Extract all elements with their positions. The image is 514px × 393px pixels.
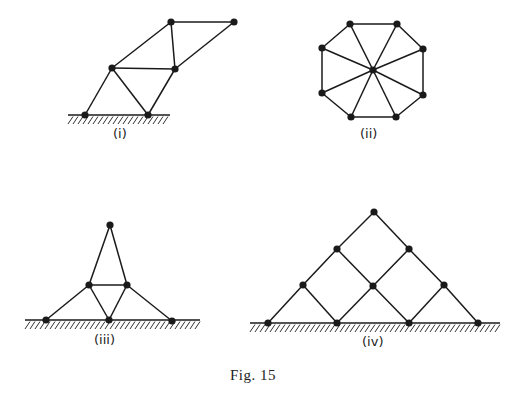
ground-hatch	[305, 325, 310, 333]
joint-node	[81, 111, 88, 118]
truss-bar	[337, 286, 373, 323]
ground-hatch	[55, 322, 60, 330]
truss-bar	[373, 24, 397, 70]
ground-hatch	[330, 325, 335, 333]
ground-hatch	[260, 325, 265, 333]
panel-label-ii: (ii)	[360, 126, 377, 141]
ground-hatch	[195, 322, 200, 330]
ground-hatch	[455, 325, 460, 333]
ground-hatch	[360, 325, 365, 333]
truss-bar	[322, 93, 351, 117]
ground-hatch	[190, 322, 195, 330]
ground-hatch	[93, 117, 98, 125]
truss-bar	[373, 49, 423, 70]
joint-node	[333, 245, 340, 252]
truss-bar	[110, 225, 127, 285]
joint-node	[405, 245, 412, 252]
joint-node	[369, 66, 376, 73]
panel-i	[68, 18, 238, 124]
joint-node	[299, 281, 306, 288]
ground-hatch	[415, 325, 420, 333]
joint-node	[264, 319, 271, 326]
truss-bar	[350, 24, 373, 70]
truss-bar	[337, 212, 374, 249]
ground-hatch	[30, 322, 35, 330]
truss-bar	[351, 70, 373, 117]
joint-node	[108, 64, 115, 71]
joint-node	[474, 319, 481, 326]
joint-node	[105, 316, 112, 323]
ground-hatch	[315, 325, 320, 333]
ground-hatch	[65, 322, 70, 330]
ground-hatch	[80, 322, 85, 330]
ground-hatch	[395, 325, 400, 333]
joint-node	[347, 113, 354, 120]
truss-bar	[396, 95, 423, 117]
ground-hatch	[355, 325, 360, 333]
ground-hatch	[100, 322, 105, 330]
ground-hatch	[108, 117, 113, 125]
truss-bar	[397, 24, 423, 49]
truss-bar	[322, 24, 350, 48]
truss-bar	[89, 225, 110, 285]
ground-hatch	[50, 322, 55, 330]
ground-hatch	[420, 325, 425, 333]
ground-hatch	[485, 325, 490, 333]
joint-node	[370, 208, 377, 215]
ground-hatch	[380, 325, 385, 333]
ground-hatch	[470, 325, 475, 333]
ground-hatch	[90, 322, 95, 330]
truss-bar	[303, 285, 337, 323]
ground-hatch	[350, 325, 355, 333]
joint-node	[392, 113, 399, 120]
ground-hatch	[25, 322, 30, 330]
ground-hatch	[115, 322, 120, 330]
ground-hatch	[175, 322, 180, 330]
ground-hatch	[310, 325, 315, 333]
ground-hatch	[158, 117, 163, 125]
truss-bar	[373, 70, 423, 95]
truss-bar	[303, 249, 337, 285]
truss-bar	[148, 69, 175, 115]
ground-hatch	[465, 325, 470, 333]
ground-hatch	[340, 325, 345, 333]
ground-hatch	[123, 117, 128, 125]
truss-bar	[373, 249, 409, 286]
ground-hatch	[285, 325, 290, 333]
joint-node	[405, 319, 412, 326]
truss-bar	[444, 285, 478, 323]
truss-bar	[85, 68, 112, 115]
panel-iv	[250, 208, 500, 332]
panel-label-i: (i)	[113, 126, 127, 141]
ground-hatch	[430, 325, 435, 333]
ground-hatch	[375, 325, 380, 333]
truss-bar	[112, 68, 175, 69]
ground-hatch	[480, 325, 485, 333]
ground-hatch	[180, 322, 185, 330]
ground-hatch	[78, 117, 83, 125]
joint-node	[318, 89, 325, 96]
ground-hatch	[275, 325, 280, 333]
joint-node	[106, 221, 113, 228]
ground-hatch	[445, 325, 450, 333]
joint-node	[123, 281, 130, 288]
ground-hatch	[153, 117, 158, 125]
joint-node	[171, 65, 178, 72]
ground-hatch	[440, 325, 445, 333]
ground-hatch	[163, 117, 168, 125]
joint-node	[419, 91, 426, 98]
ground-hatch	[255, 325, 260, 333]
truss-bar	[171, 22, 175, 69]
ground-hatch	[400, 325, 405, 333]
truss-bar	[112, 22, 171, 68]
ground-hatch	[250, 325, 255, 333]
ground-hatch	[150, 322, 155, 330]
panel-label-iii: (iii)	[94, 332, 115, 347]
joint-node	[167, 18, 174, 25]
ground-hatch	[70, 322, 75, 330]
ground-hatch	[300, 325, 305, 333]
ground-hatch	[490, 325, 495, 333]
panel-ii	[318, 20, 426, 120]
ground-hatch	[280, 325, 285, 333]
ground-hatch	[365, 325, 370, 333]
